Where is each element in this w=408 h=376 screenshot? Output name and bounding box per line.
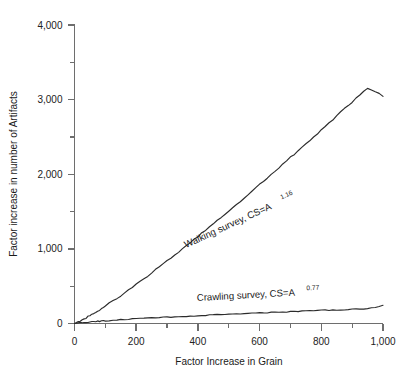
series-annotation-walking-survey: Walking survey, CS=A 1.16: [182, 189, 297, 250]
x-axis-title: Factor Increase in Grain: [175, 356, 282, 367]
line-chart: 01,0002,0003,0004,000 02004006008001,000…: [0, 0, 408, 376]
walking-survey-exponent: 1.16: [279, 189, 294, 201]
crawling-survey-exponent: 0.77: [306, 284, 320, 292]
y-axis-major-ticks: [68, 25, 75, 324]
y-tick-label: 2,000: [37, 169, 62, 180]
y-tick-label: 3,000: [37, 94, 62, 105]
crawling-survey-label: Crawling survey, CS=A: [196, 286, 295, 302]
x-tick-label: 400: [190, 336, 207, 347]
walking-survey-label: Walking survey, CS=A: [182, 200, 273, 250]
x-tick-label: 600: [251, 336, 268, 347]
series-annotation-crawling-survey: Crawling survey, CS=A 0.77: [196, 284, 320, 303]
y-axis-tick-labels: 01,0002,0003,0004,000: [37, 20, 62, 330]
y-tick-label: 0: [57, 318, 63, 329]
y-tick-label: 1,000: [37, 243, 62, 254]
x-tick-label: 200: [128, 336, 145, 347]
x-tick-label: 1,000: [370, 336, 395, 347]
series-line-crawling-survey: [75, 305, 384, 323]
y-tick-label: 4,000: [37, 20, 62, 31]
x-tick-label: 0: [72, 336, 78, 347]
y-axis-title: Factor increase in number of Artifacts: [8, 91, 19, 257]
series-line-walking-survey: [75, 88, 384, 323]
x-tick-label: 800: [313, 336, 330, 347]
chart-figure: 01,0002,0003,0004,000 02004006008001,000…: [0, 0, 408, 376]
x-axis-tick-labels: 02004006008001,000: [72, 336, 396, 347]
